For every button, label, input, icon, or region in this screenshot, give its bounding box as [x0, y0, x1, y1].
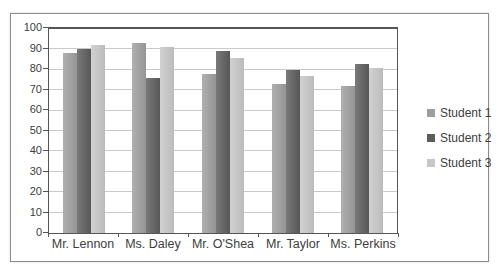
bar-student-1-mr-o-shea[interactable]	[202, 74, 216, 233]
bar-student-3-ms-perkins[interactable]	[369, 68, 383, 233]
chart-screenshot: { "chart_data": { "type": "bar", "title"…	[0, 0, 503, 275]
legend-item-student-2[interactable]: Student 2	[427, 131, 491, 145]
y-axis-tick-70	[43, 89, 48, 90]
y-axis-tick-90	[43, 48, 48, 49]
bar-student-3-mr-lennon[interactable]	[91, 45, 105, 233]
bar-student-1-mr-taylor[interactable]	[272, 84, 286, 233]
bar-student-1-ms-daley[interactable]	[132, 43, 146, 233]
y-axis-ticks	[43, 27, 48, 232]
y-axis-label-40: 40	[30, 145, 42, 156]
y-axis-tick-50	[43, 130, 48, 131]
y-axis-tick-10	[43, 212, 48, 213]
y-axis-label-20: 20	[30, 186, 42, 197]
y-axis-label-10: 10	[30, 206, 42, 217]
bar-group-mr-taylor	[258, 29, 328, 233]
y-axis-tick-100	[43, 27, 48, 28]
y-axis-label-100: 100	[24, 22, 42, 33]
bar-student-3-mr-o-shea[interactable]	[230, 58, 244, 233]
x-axis-label-mr-taylor: Mr. Taylor	[258, 237, 328, 251]
y-axis-label-30: 30	[30, 165, 42, 176]
x-axis-label-ms-daley: Ms. Daley	[118, 237, 188, 251]
legend: Student 1Student 2Student 3	[427, 106, 491, 181]
bar-student-3-mr-taylor[interactable]	[300, 76, 314, 233]
bar-student-2-mr-taylor[interactable]	[286, 70, 300, 233]
y-axis-labels: 0102030405060708090100	[11, 27, 42, 232]
bar-student-2-mr-lennon[interactable]	[77, 49, 91, 233]
legend-marker-icon	[427, 134, 435, 142]
legend-label: Student 3	[440, 157, 491, 169]
y-axis-label-50: 50	[30, 124, 42, 135]
bar-student-2-mr-o-shea[interactable]	[216, 51, 230, 233]
legend-item-student-3[interactable]: Student 3	[427, 156, 491, 170]
bar-student-2-ms-daley[interactable]	[146, 78, 160, 233]
y-axis-tick-40	[43, 150, 48, 151]
legend-marker-icon	[427, 109, 435, 117]
y-axis-tick-30	[43, 171, 48, 172]
legend-label: Student 2	[440, 132, 491, 144]
bar-group-ms-perkins	[327, 29, 397, 233]
x-axis-label-ms-perkins: Ms. Perkins	[328, 237, 398, 251]
y-axis-label-80: 80	[30, 63, 42, 74]
y-axis-label-60: 60	[30, 104, 42, 115]
legend-item-student-1[interactable]: Student 1	[427, 106, 491, 120]
bar-groups	[49, 29, 397, 233]
y-axis-tick-60	[43, 109, 48, 110]
bar-student-3-ms-daley[interactable]	[160, 47, 174, 233]
legend-marker-icon	[427, 159, 435, 167]
x-axis-labels: Mr. LennonMs. DaleyMr. O'SheaMr. TaylorM…	[48, 237, 398, 251]
bar-group-mr-lennon	[49, 29, 119, 233]
y-axis-label-0: 0	[36, 227, 42, 238]
plot-area	[48, 27, 398, 234]
chart-frame: 0102030405060708090100 Mr. LennonMs. Dal…	[10, 13, 489, 262]
y-axis-label-90: 90	[30, 42, 42, 53]
bar-student-1-ms-perkins[interactable]	[341, 86, 355, 233]
y-axis-tick-80	[43, 68, 48, 69]
x-axis-tick-5	[398, 233, 399, 237]
y-axis-label-70: 70	[30, 83, 42, 94]
bar-group-mr-o-shea	[188, 29, 258, 233]
legend-label: Student 1	[440, 107, 491, 119]
bar-group-ms-daley	[119, 29, 189, 233]
x-axis-label-mr-o-shea: Mr. O'Shea	[188, 237, 258, 251]
y-axis-tick-20	[43, 191, 48, 192]
bar-student-2-ms-perkins[interactable]	[355, 64, 369, 233]
x-axis-label-mr-lennon: Mr. Lennon	[48, 237, 118, 251]
bar-student-1-mr-lennon[interactable]	[63, 53, 77, 233]
